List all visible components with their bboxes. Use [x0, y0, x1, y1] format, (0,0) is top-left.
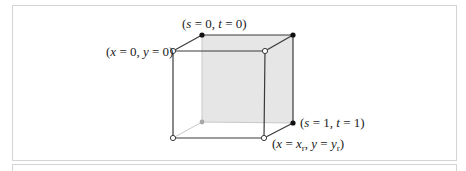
- vertex-front-bottom-left: [170, 135, 175, 140]
- vertex-front-top-right: [262, 48, 267, 53]
- hidden-edge-depth: [173, 122, 202, 138]
- label-xr-yr: (x = xr, y = yr): [272, 136, 344, 153]
- label-s0-t0: (s = 0, t = 0): [182, 16, 247, 31]
- vertex-front-bottom-right: [261, 135, 266, 140]
- label-x0-y0: (x = 0, y = 0): [106, 44, 173, 59]
- vertex-back-bottom-right: [290, 120, 295, 125]
- vertex-back-bottom-left: [200, 120, 205, 125]
- label-s1-t1: (s = 1, t = 1): [300, 115, 365, 130]
- cube-diagram: (s = 0, t = 0) (x = 0, y = 0) (s = 1, t …: [0, 0, 466, 171]
- shaded-back-face: [202, 35, 293, 123]
- vertex-back-top-right: [290, 32, 295, 37]
- vertex-back-top-left: [199, 32, 204, 37]
